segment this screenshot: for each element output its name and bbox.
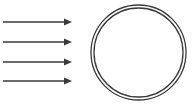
diagram-svg — [0, 0, 192, 108]
diagram-canvas — [0, 0, 192, 108]
arrow-head-icon — [64, 59, 72, 66]
arrow-head-icon — [64, 78, 72, 85]
outer-circle — [91, 5, 186, 100]
parallel-rays-group — [3, 19, 72, 85]
arrow-1 — [3, 19, 72, 26]
arrow-head-icon — [64, 19, 72, 26]
arrow-3 — [3, 59, 72, 66]
double-circle-group — [91, 5, 186, 100]
arrow-2 — [3, 39, 72, 46]
arrow-head-icon — [64, 39, 72, 46]
inner-circle — [94, 8, 183, 97]
arrow-4 — [3, 78, 72, 85]
